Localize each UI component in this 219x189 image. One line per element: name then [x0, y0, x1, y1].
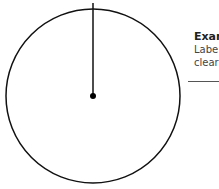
legend-divider	[188, 81, 219, 82]
legend-line-1: Labe	[194, 43, 219, 56]
clock-dial	[0, 0, 190, 189]
legend: Exar Labe clear	[194, 30, 219, 69]
legend-title: Exar	[194, 30, 219, 43]
center-dot	[90, 93, 96, 99]
legend-line-2: clear	[194, 56, 219, 69]
